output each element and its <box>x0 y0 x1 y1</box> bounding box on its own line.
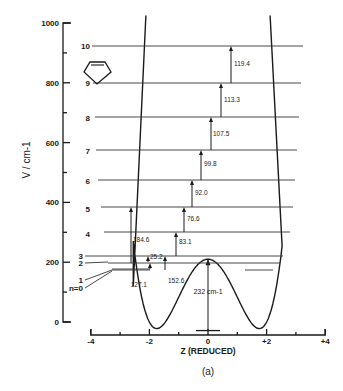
transition-label: 83.1 <box>179 238 192 245</box>
x-tick-label: -4 <box>87 337 95 346</box>
transition-label: 92.0 <box>195 189 208 196</box>
transition-label: 76.6 <box>187 215 200 222</box>
y-tick-label: 200 <box>46 258 60 267</box>
level-label: 6 <box>86 177 91 186</box>
level-label: 1 <box>79 276 84 285</box>
level-label: 7 <box>86 147 91 156</box>
y-tick-label: 600 <box>46 139 60 148</box>
barrier-height-label: 232 cm-1 <box>193 288 222 295</box>
y-tick-label: 0 <box>55 318 60 327</box>
transition-arrows: 127.1152.625.2184.683.176.692.099.8107.5… <box>129 46 250 288</box>
y-axis-label: V / cm-1 <box>21 141 32 179</box>
x-tick-label: +4 <box>321 337 331 346</box>
y-tick-label: 1000 <box>41 19 59 28</box>
x-tick-label: -2 <box>146 337 154 346</box>
transition-label: 127.1 <box>131 281 148 288</box>
potential-energy-diagram: 02004006008001000-4-20+2+4 232 cm-1 n=01… <box>0 0 343 391</box>
x-axis-label: Z (REDUCED) <box>180 346 235 356</box>
level-label: 10 <box>81 42 90 51</box>
transition-label: 107.5 <box>213 130 230 137</box>
transition-label: 25.2 <box>150 253 163 260</box>
figure-caption: (a) <box>202 366 214 377</box>
y-tick-label: 800 <box>46 79 60 88</box>
y-tick-label: 400 <box>46 198 60 207</box>
level-label: 9 <box>86 79 91 88</box>
transition-label: 99.8 <box>204 160 217 167</box>
x-tick-label: 0 <box>206 337 211 346</box>
transition-label: 113.3 <box>224 96 240 103</box>
x-tick-label: +2 <box>262 337 272 346</box>
level-label: 4 <box>86 230 91 239</box>
level-label: 5 <box>86 205 91 214</box>
level-label: 3 <box>79 252 84 261</box>
transition-label: 152.6 <box>168 277 185 284</box>
level-label: 8 <box>86 114 91 123</box>
energy-levels: n=012345678910 <box>69 42 303 293</box>
double-well-potential-curve: 232 cm-1 <box>133 16 282 331</box>
transition-label: 119.4 <box>234 60 250 67</box>
level-label: n=0 <box>69 284 84 293</box>
transition-label: 184.6 <box>133 236 150 243</box>
